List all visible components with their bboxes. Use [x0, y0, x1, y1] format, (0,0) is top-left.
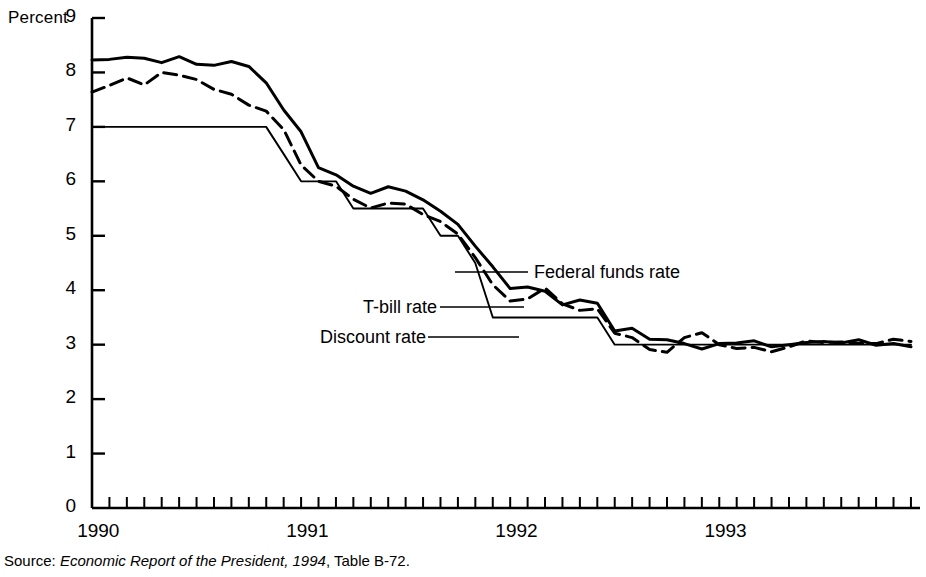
y-axis-tick-label: 4	[48, 277, 76, 299]
x-axis-tick-label: 1992	[495, 520, 537, 542]
series-line-discount-rate	[92, 127, 911, 345]
source-publication: Economic Report of the President, 1994	[60, 552, 326, 569]
source-prefix: Source:	[4, 552, 56, 569]
interest-rate-chart: Percent Federal funds rate T-bill rate D…	[0, 0, 926, 577]
series-label-federal-funds: Federal funds rate	[534, 262, 680, 283]
y-axis-tick-label: 5	[48, 223, 76, 245]
source-note: Source: Economic Report of the President…	[4, 552, 410, 569]
y-axis-tick-label: 9	[48, 5, 76, 27]
x-axis-tick-label: 1990	[77, 520, 119, 542]
series-line-federal-funds-rate	[92, 57, 911, 349]
y-axis-tick-label: 3	[48, 332, 76, 354]
series-label-tbill: T-bill rate	[363, 297, 437, 318]
y-axis-tick-label: 6	[48, 168, 76, 190]
y-axis-tick-label: 2	[48, 386, 76, 408]
source-suffix: Table B-72.	[334, 552, 410, 569]
chart-plot-area	[0, 0, 926, 577]
series-label-discount: Discount rate	[320, 327, 426, 348]
y-axis-tick-label: 1	[48, 441, 76, 463]
x-axis-tick-label: 1993	[704, 520, 746, 542]
y-axis-tick-label: 8	[48, 59, 76, 81]
series-line-t-bill-rate	[92, 72, 911, 352]
y-axis-tick-label: 7	[48, 114, 76, 136]
source-comma: ,	[326, 552, 330, 569]
x-axis-tick-label: 1991	[286, 520, 328, 542]
y-axis-tick-label: 0	[48, 495, 76, 517]
